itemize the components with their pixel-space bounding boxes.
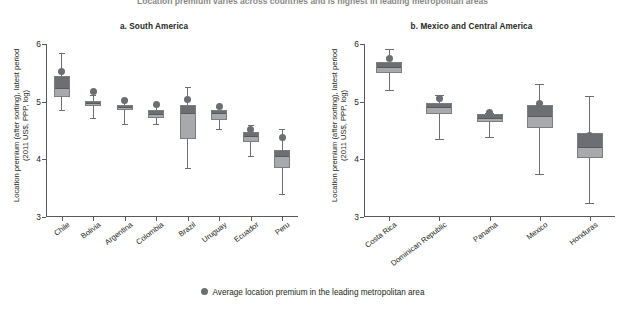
whisker-cap-lower [185, 168, 191, 169]
box-plot-item[interactable] [148, 44, 164, 217]
box-plot-item[interactable] [117, 44, 133, 217]
median-line [478, 118, 502, 119]
figure-suptitle: Location premium varies across countries… [0, 0, 625, 6]
average-location-premium-dot[interactable] [279, 134, 286, 141]
x-tick-mark [590, 217, 591, 221]
whisker-cap-lower [435, 139, 444, 140]
median-line [244, 136, 258, 137]
legend: Average location premium in the leading … [0, 288, 625, 297]
y-axis-title-line2: (2011 US$, PPP, log) [21, 90, 30, 161]
whisker-cap-upper [385, 49, 394, 50]
y-tick-label: 3 [36, 212, 41, 222]
x-tick-mark [62, 217, 63, 221]
x-tick-mark [490, 217, 491, 221]
box-rect [54, 76, 70, 97]
x-axis-label: Ecuador [232, 220, 260, 244]
whisker-cap-upper [59, 53, 65, 54]
average-location-premium-dot[interactable] [90, 88, 97, 95]
x-axis-label: Panama [471, 220, 499, 244]
whisker-cap-lower [59, 110, 65, 111]
whisker-cap-upper [279, 129, 285, 130]
y-tick-label: 6 [36, 39, 41, 49]
median-line [377, 67, 401, 68]
x-tick-mark [439, 217, 440, 221]
whisker-cap-lower [585, 203, 594, 204]
y-tick-mark [42, 44, 46, 45]
x-tick-mark [156, 217, 157, 221]
legend-marker-icon [201, 288, 208, 295]
box-rect [274, 150, 290, 168]
whisker-cap-upper [185, 87, 191, 88]
box-rect [180, 105, 196, 140]
box-plot-item[interactable] [85, 44, 101, 217]
whisker-cap-lower [279, 194, 285, 195]
figure-root: Location premium varies across countries… [0, 0, 625, 318]
whisker-cap-lower [485, 137, 494, 138]
y-axis-title-line1: Location premium (after sorting), latest… [12, 49, 21, 202]
median-line [149, 114, 163, 115]
average-location-premium-dot[interactable] [586, 132, 593, 139]
x-tick-mark [188, 217, 189, 221]
box-plot-item[interactable] [577, 44, 603, 217]
y-tick-mark [360, 102, 364, 103]
x-axis-label: Costa Rica [363, 220, 398, 250]
y-tick-label: 4 [36, 154, 41, 164]
average-location-premium-dot[interactable] [121, 97, 128, 104]
average-location-premium-dot[interactable] [184, 96, 191, 103]
y-tick-mark [42, 102, 46, 103]
box-rect [148, 110, 164, 118]
average-location-premium-dot[interactable] [386, 55, 393, 62]
box-plot-item[interactable] [243, 44, 259, 217]
y-tick-mark [360, 159, 364, 160]
x-tick-mark [540, 217, 541, 221]
box-rect [527, 105, 553, 128]
y-tick-mark [360, 44, 364, 45]
whisker-cap-upper [535, 84, 544, 85]
box-rect [376, 62, 402, 72]
box-plot-item[interactable] [426, 44, 452, 217]
whisker-cap-lower [385, 90, 394, 91]
x-axis-label: Colombia [135, 220, 166, 246]
x-tick-mark [219, 217, 220, 221]
panel-b-x-labels: Costa RicaDominican RepublicPanamaMexico… [364, 217, 615, 277]
x-axis-label: Bolivia [79, 220, 102, 241]
box-plot-item[interactable] [274, 44, 290, 217]
median-line [275, 156, 289, 157]
box-plot-item[interactable] [211, 44, 227, 217]
median-line [578, 147, 602, 148]
x-axis-label: Honduras [568, 220, 600, 247]
panel-a-plot-area: 3456 ChileBoliviaArgentinaColombiaBrazil… [46, 44, 298, 217]
median-line [212, 113, 226, 114]
whisker-cap-lower [153, 124, 159, 125]
box-plot-item[interactable] [180, 44, 196, 217]
median-line [86, 103, 100, 104]
whisker-cap-lower [122, 124, 128, 125]
median-line [118, 107, 132, 108]
y-axis-title-line2: (2011 US$, PPP, log) [339, 90, 348, 161]
legend-label: Average location premium in the leading … [213, 288, 425, 297]
whisker-cap-lower [248, 156, 254, 157]
average-location-premium-dot[interactable] [436, 95, 443, 102]
panel-a-y-axis-title: Location premium (after sorting), latest… [12, 45, 31, 205]
panel-south-america: a. South America Location premium (after… [4, 20, 304, 285]
whisker-cap-upper [90, 95, 96, 96]
whisker-line [93, 95, 94, 118]
x-tick-mark [251, 217, 252, 221]
y-tick-label: 5 [36, 97, 41, 107]
average-location-premium-dot[interactable] [58, 68, 65, 75]
whisker-line [539, 84, 540, 173]
panel-a-title: a. South America [4, 22, 304, 31]
average-location-premium-dot[interactable] [216, 103, 223, 110]
box-rect [211, 110, 227, 120]
median-line [427, 107, 451, 108]
box-plot-item[interactable] [376, 44, 402, 217]
box-plot-item[interactable] [477, 44, 503, 217]
box-plot-item[interactable] [527, 44, 553, 217]
box-plot-item[interactable] [54, 44, 70, 217]
x-tick-mark [389, 217, 390, 221]
y-tick-label: 3 [354, 212, 359, 222]
whisker-cap-lower [535, 174, 544, 175]
average-location-premium-dot[interactable] [153, 101, 160, 108]
panel-mexico-central-america: b. Mexico and Central America Location p… [322, 20, 621, 285]
y-tick-label: 4 [354, 154, 359, 164]
